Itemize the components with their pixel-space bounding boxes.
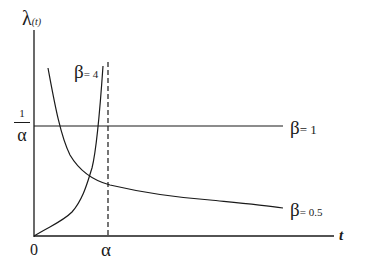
beta-symbol: β <box>290 117 300 138</box>
beta-value: = 1 <box>300 122 317 137</box>
origin-label: 0 <box>30 242 38 258</box>
label-beta-4: β= 4 <box>74 62 98 81</box>
x-axis-label: t <box>339 228 343 243</box>
inv-alpha-numerator: 1 <box>14 108 30 119</box>
beta-symbol: β <box>290 199 300 220</box>
y-axis-label: λ(t) <box>22 8 41 28</box>
inv-alpha-denominator: α <box>14 126 30 144</box>
series-beta-0-5 <box>48 68 283 208</box>
alpha-tick-label: α <box>101 240 111 259</box>
inv-alpha-fraction-bar <box>14 122 30 123</box>
label-beta-1: β= 1 <box>290 118 317 137</box>
beta-value: = 0.5 <box>300 206 323 218</box>
y-axis-lambda: λ <box>22 7 32 29</box>
beta-value: = 4 <box>84 68 98 80</box>
y-axis-arg: (t) <box>32 16 41 27</box>
beta-symbol: β <box>74 61 84 82</box>
label-beta-0-5: β= 0.5 <box>290 200 322 219</box>
